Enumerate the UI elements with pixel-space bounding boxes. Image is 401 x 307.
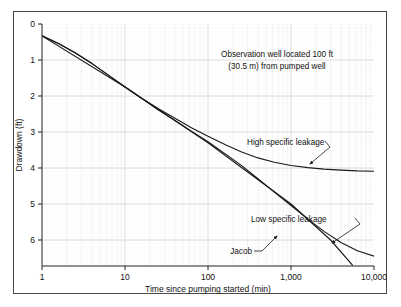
x-tick-label-10000: 10,000: [361, 272, 387, 282]
high-leakage-label: High specific leakage: [247, 138, 325, 147]
x-tick-label-100: 100: [201, 272, 215, 282]
y-tick-label-3: 3: [30, 127, 35, 137]
observation-note-line1: Observation well located 100 ft: [221, 50, 334, 59]
x-tick-label-1: 1: [40, 272, 45, 282]
y-tick-label-4: 4: [30, 163, 35, 173]
low-leakage-label: Low specific leakage: [251, 215, 327, 224]
y-tick-label-1: 1: [30, 55, 35, 65]
jacob-label: Jacob: [230, 247, 252, 256]
y-tick-label-2: 2: [30, 91, 35, 101]
figure-container: 0 1 2 3 4 5 6 1 10 100 1,000 10,000 Time…: [0, 0, 401, 307]
semi-log-drawdown-chart: 0 1 2 3 4 5 6 1 10 100 1,000 10,000 Time…: [0, 0, 401, 307]
observation-note-line2: (30.5 m) from pumped well: [228, 62, 326, 71]
x-tick-label-10: 10: [120, 272, 130, 282]
y-tick-label-5: 5: [30, 199, 35, 209]
y-axis-title: Drawdown (ft): [14, 118, 24, 171]
y-tick-label-0: 0: [30, 19, 35, 29]
y-tick-label-6: 6: [30, 235, 35, 245]
x-axis-ticks: [42, 266, 374, 270]
y-axis-ticks: [38, 24, 42, 240]
x-axis-title: Time since pumping started (min): [145, 284, 271, 294]
x-tick-label-1000: 1,000: [280, 272, 302, 282]
